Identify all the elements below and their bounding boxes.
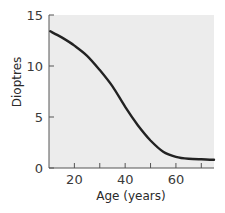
- x-tick-label: 40: [117, 172, 134, 187]
- x-axis-title: Age (years): [96, 189, 165, 203]
- x-tick-label: 20: [66, 172, 83, 187]
- y-axis-title: Dioptres: [10, 57, 24, 108]
- x-tick-label: 60: [168, 172, 185, 187]
- y-tick-label: 10: [26, 59, 43, 74]
- y-tick-label: 0: [35, 161, 43, 176]
- plot-background: [49, 15, 214, 168]
- y-tick-label: 5: [35, 110, 43, 125]
- y-tick-label: 15: [26, 8, 43, 23]
- line-chart: 204060 051015 Age (years) Dioptres: [0, 0, 225, 213]
